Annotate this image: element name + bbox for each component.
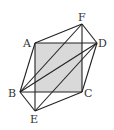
- label-D: D: [98, 37, 107, 50]
- label-E: E: [30, 113, 38, 126]
- segment-BA: [20, 43, 35, 92]
- geometry-figure: A B C D E F: [0, 0, 114, 130]
- label-F: F: [78, 11, 86, 24]
- segment-EB: [20, 92, 35, 111]
- label-A: A: [22, 37, 32, 50]
- segment-DC: [82, 43, 97, 92]
- label-C: C: [84, 87, 92, 100]
- label-B: B: [8, 87, 16, 100]
- segment-CE: [35, 92, 82, 111]
- segment-FD: [82, 24, 97, 43]
- segment-AF: [35, 24, 82, 43]
